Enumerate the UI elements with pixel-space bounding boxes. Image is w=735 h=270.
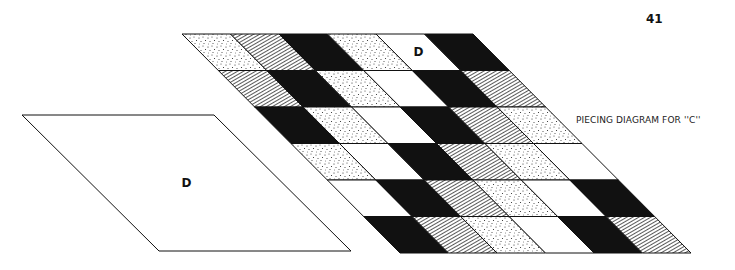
grid-cell-label: D xyxy=(413,45,423,59)
template-piece-label: D xyxy=(182,176,192,190)
piecing-diagram: D D xyxy=(0,0,735,270)
diagram-page: 41 PIECING DIAGRAM FOR ''C'' D D xyxy=(0,0,735,270)
